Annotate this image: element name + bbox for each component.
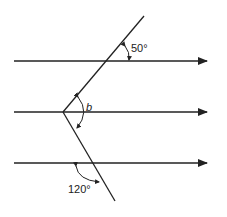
- angle-arc-50: [125, 46, 129, 60]
- angle-label-50: 50°: [131, 42, 148, 54]
- diagram: 50° b 120°: [0, 0, 227, 217]
- angle-label-120: 120°: [68, 183, 91, 195]
- angle-label-b: b: [86, 101, 92, 113]
- transversal-upper: [63, 16, 144, 112]
